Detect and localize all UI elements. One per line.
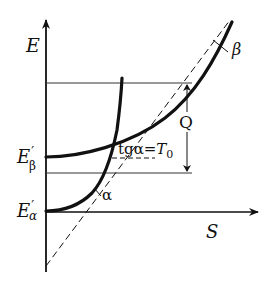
e-beta-label: E′β bbox=[16, 144, 36, 173]
e-alpha-label: E′α bbox=[16, 198, 37, 223]
s-axis-label: S bbox=[206, 221, 218, 242]
alpha-curve-label: α bbox=[102, 186, 112, 204]
tangent-label: tgα=T0 bbox=[118, 140, 173, 161]
phase-energy-diagram: E S E′β E′α β α Q tgα=T0 bbox=[0, 0, 274, 298]
beta-curve-label: β bbox=[231, 40, 241, 59]
beta-curve bbox=[46, 22, 232, 157]
q-label: Q bbox=[179, 112, 193, 132]
alpha-leader bbox=[94, 188, 101, 196]
e-axis-label: E bbox=[25, 34, 40, 56]
beta-leader bbox=[213, 40, 228, 52]
